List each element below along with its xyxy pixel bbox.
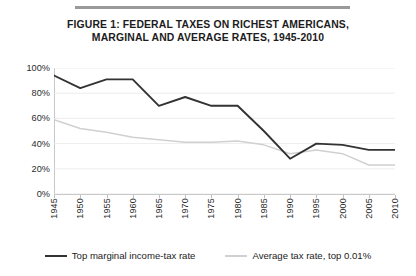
- legend-swatch-average: [225, 255, 247, 257]
- x-axis-tick-label: 1980: [233, 198, 243, 219]
- x-axis-tick-label: 2000: [338, 198, 348, 219]
- y-axis-tick-label: 0%: [6, 189, 50, 199]
- x-axis-tick-label: 1975: [206, 198, 216, 219]
- x-axis-tick-label: 2005: [364, 198, 374, 219]
- y-axis-tick-label: 40%: [6, 139, 50, 149]
- legend-swatch-marginal: [45, 255, 67, 257]
- line-chart-svg: [54, 68, 395, 194]
- figure-title: FIGURE 1: FEDERAL TAXES ON RICHEST AMERI…: [28, 18, 388, 44]
- y-axis-tick-label: 80%: [6, 88, 50, 98]
- x-axis-tick-label: 1960: [128, 198, 138, 219]
- legend-item-marginal[interactable]: Top marginal income-tax rate: [45, 250, 196, 261]
- figure-title-line-2: MARGINAL AND AVERAGE RATES, 1945-2010: [28, 31, 388, 44]
- x-axis-tick-label: 1945: [49, 198, 59, 219]
- legend-item-average[interactable]: Average tax rate, top 0.01%: [225, 250, 371, 261]
- y-axis-tick-label: 100%: [6, 63, 50, 73]
- x-axis-tick-label: 1985: [259, 198, 269, 219]
- x-axis-tick-label: 2010: [390, 198, 400, 219]
- series-line-marginal: [54, 76, 395, 159]
- chart-area: 100%80%60%40%20%0% 194519501955196019651…: [0, 56, 416, 206]
- plot-area: [54, 68, 395, 194]
- x-axis-tick-label: 1950: [75, 198, 85, 219]
- x-axis-tick-label: 1970: [180, 198, 190, 219]
- x-axis-tick-label: 1990: [285, 198, 295, 219]
- legend-label-marginal: Top marginal income-tax rate: [72, 250, 196, 261]
- legend-label-average: Average tax rate, top 0.01%: [252, 250, 371, 261]
- y-axis-tick-label: 60%: [6, 113, 50, 123]
- figure-title-line-1: FIGURE 1: FEDERAL TAXES ON RICHEST AMERI…: [28, 18, 388, 31]
- y-axis-tick-label: 20%: [6, 164, 50, 174]
- series-line-average: [54, 120, 395, 165]
- chart-legend: Top marginal income-tax rate Average tax…: [0, 250, 416, 274]
- y-axis-labels: 100%80%60%40%20%0%: [6, 68, 50, 194]
- x-axis-labels: 1945195019551960196519701975198019851990…: [54, 195, 395, 241]
- title-divider-rule: [75, 6, 350, 9]
- x-axis-tick-label: 1995: [311, 198, 321, 219]
- x-axis-tick-label: 1965: [154, 198, 164, 219]
- x-axis-tick-label: 1955: [102, 198, 112, 219]
- data-series-layer: [54, 76, 395, 165]
- gridlines: [54, 68, 395, 194]
